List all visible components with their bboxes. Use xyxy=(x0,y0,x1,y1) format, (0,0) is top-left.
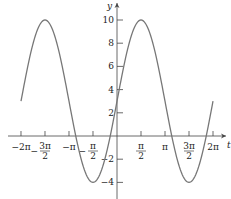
svg-text:−: − xyxy=(30,146,38,156)
y-tick-label: 6 xyxy=(108,61,114,71)
x-axis-label: t xyxy=(227,140,231,150)
svg-text:2: 2 xyxy=(42,151,48,161)
y-tick-label: 4 xyxy=(108,85,114,95)
y-tick-label: 8 xyxy=(108,38,114,48)
svg-text:2: 2 xyxy=(90,151,96,161)
x-tick-label: 3π2− xyxy=(30,141,50,161)
svg-text:π: π xyxy=(90,141,96,151)
svg-text:π: π xyxy=(138,141,144,151)
svg-text:3π: 3π xyxy=(39,141,51,151)
x-tick-label: π2 xyxy=(136,141,146,161)
svg-text:2: 2 xyxy=(186,151,192,161)
x-tick-label: π xyxy=(162,142,168,152)
y-tick-label: −2 xyxy=(101,154,114,164)
y-tick-label: 2 xyxy=(108,108,114,118)
svg-text:3π: 3π xyxy=(183,141,195,151)
ticks: −2π3π2−−ππ2−π2π3π22π108642−2−4 xyxy=(11,15,218,187)
function-plot: ty −2π3π2−−ππ2−π2π3π22π108642−2−4 xyxy=(0,0,231,199)
y-tick-label: −4 xyxy=(101,177,115,187)
x-tick-label: 2π xyxy=(207,142,219,152)
x-tick-label: −π xyxy=(62,142,76,152)
y-axis-label: y xyxy=(106,1,113,11)
svg-text:2: 2 xyxy=(138,151,144,161)
y-tick-label: 10 xyxy=(103,15,115,25)
x-tick-label: −2π xyxy=(11,142,30,152)
x-tick-label: 3π2 xyxy=(183,141,195,161)
